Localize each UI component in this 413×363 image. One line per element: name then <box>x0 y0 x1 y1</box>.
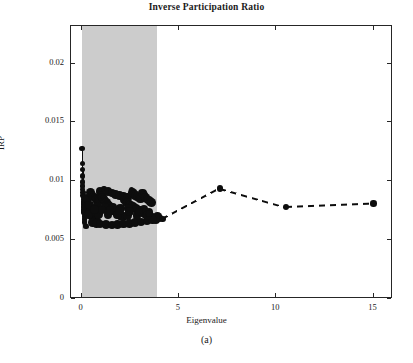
figure-panel: Inverse Participation Ratio 00.0050.010.… <box>0 0 413 363</box>
x-axis-tick <box>373 26 374 30</box>
x-axis-tick-label: 10 <box>260 302 290 312</box>
x-axis-tick-label: 5 <box>163 302 193 312</box>
scatter-point <box>106 206 115 215</box>
y-axis-tick <box>387 298 391 299</box>
y-axis-tick <box>71 298 75 299</box>
y-axis-tick-label: 0.015 <box>20 115 64 125</box>
x-axis-tick <box>275 293 276 297</box>
y-axis-tick-label: 0.005 <box>20 233 64 243</box>
x-axis-tick <box>275 26 276 30</box>
shaded-bulk-region <box>82 26 157 297</box>
x-axis-tick <box>178 293 179 297</box>
line-marker <box>217 185 223 191</box>
y-axis-tick <box>71 180 75 181</box>
dashed-line-segment <box>162 188 220 220</box>
y-axis-tick <box>387 121 391 122</box>
figure-subcaption: (a) <box>0 334 413 345</box>
dashed-line-segment <box>220 188 287 208</box>
y-axis-tick-label: 0.01 <box>20 174 64 184</box>
y-axis-tick-label: 0.02 <box>20 57 64 67</box>
scatter-point <box>125 207 134 216</box>
x-axis-tick <box>81 293 82 297</box>
y-axis-tick <box>71 63 75 64</box>
line-marker <box>283 204 289 210</box>
y-axis-tick <box>387 239 391 240</box>
y-axis-label: IRP <box>0 136 6 150</box>
y-axis-tick <box>387 63 391 64</box>
plot-area <box>70 25 392 298</box>
y-axis-tick-label: 0 <box>20 292 64 302</box>
line-marker <box>159 216 165 222</box>
scatter-point <box>147 198 156 207</box>
x-axis-tick-label: 15 <box>358 302 388 312</box>
x-axis-label: Eigenvalue <box>0 315 413 325</box>
dashed-line-segment <box>286 203 374 208</box>
scatter-stalk <box>83 186 84 224</box>
line-marker <box>370 200 376 206</box>
scatter-point <box>115 207 124 216</box>
y-axis-tick <box>387 180 391 181</box>
y-axis-tick <box>71 121 75 122</box>
y-axis-tick <box>71 239 75 240</box>
x-axis-tick <box>81 26 82 30</box>
chart-title: Inverse Participation Ratio <box>0 2 413 12</box>
x-axis-tick-label: 0 <box>66 302 96 312</box>
x-axis-tick <box>178 26 179 30</box>
line-marker <box>146 210 152 216</box>
x-axis-tick <box>373 293 374 297</box>
